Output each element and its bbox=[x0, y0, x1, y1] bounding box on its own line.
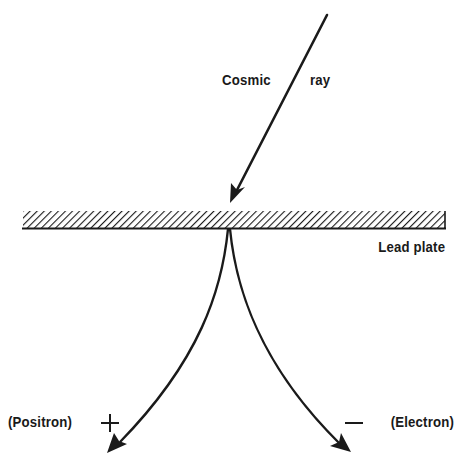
positron-track bbox=[107, 229, 228, 453]
electron-track bbox=[230, 229, 351, 452]
lead-plate bbox=[22, 211, 446, 229]
positron-arrowhead-icon bbox=[107, 433, 127, 453]
positron-label: (Positron) bbox=[8, 413, 72, 430]
cosmic-ray-track bbox=[230, 15, 327, 203]
lead-plate-label: Lead plate bbox=[378, 238, 445, 255]
plus-sign-icon bbox=[101, 414, 119, 432]
cosmic-label: Cosmic bbox=[222, 71, 271, 88]
cosmic-ray-arrowhead-icon bbox=[230, 183, 245, 203]
ray-label: ray bbox=[310, 71, 330, 88]
electron-label: (Electron) bbox=[391, 413, 454, 430]
pair-production-diagram bbox=[0, 0, 460, 457]
